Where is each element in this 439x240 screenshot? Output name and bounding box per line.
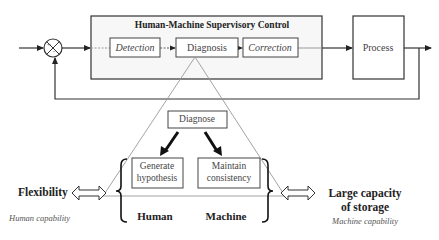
storage-label-line1: Large capacity — [328, 188, 401, 200]
left-brace-icon — [116, 159, 127, 222]
flexibility-label: Flexibility — [18, 187, 68, 199]
plus-sign: + — [47, 42, 51, 49]
correction-label: Correction — [248, 43, 292, 53]
process-label: Process — [363, 43, 394, 53]
storage-double-arrow-icon — [281, 186, 315, 200]
detection-label: Detection — [116, 43, 155, 53]
diagnose-to-maintain-arrow — [205, 132, 217, 151]
flexibility-double-arrow-icon — [72, 186, 106, 200]
human-label: Human — [137, 211, 172, 222]
right-brace-icon — [262, 159, 273, 222]
diagram-canvas: + - Human-Machine Supervisory Control De… — [0, 0, 439, 240]
machine-label: Machine — [206, 211, 247, 222]
machine-capability-caption: Machine capability — [332, 217, 398, 226]
storage-label-line2: of storage — [341, 202, 389, 214]
human-capability-caption: Human capability — [9, 214, 70, 223]
maintain-label-line2: consistency — [207, 174, 251, 184]
maintain-label-line1: Maintain — [212, 162, 246, 172]
supervisory-title: Human-Machine Supervisory Control — [135, 21, 289, 31]
diagnose-to-generate-arrow — [165, 132, 178, 151]
diagnosis-label: Diagnosis — [187, 43, 227, 53]
diagnose-label: Diagnose — [179, 115, 215, 125]
minus-sign: - — [53, 48, 55, 55]
generate-label-line1: Generate — [140, 162, 174, 172]
generate-label-line2: hypothesis — [137, 174, 178, 184]
